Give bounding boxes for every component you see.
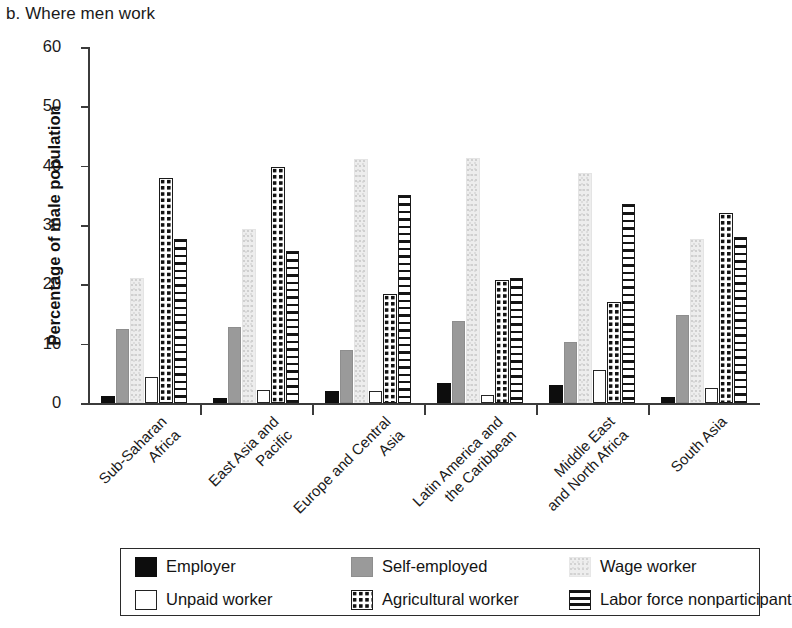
- chart-legend: EmployerSelf-employedWage worker Unpaid …: [120, 548, 760, 616]
- bar-selfemployed: [340, 350, 354, 403]
- y-tick-label: 20: [21, 274, 61, 293]
- light-stipple-swatch: [569, 557, 591, 577]
- page-title: b. Where men work: [6, 4, 155, 24]
- bar-selfemployed: [452, 321, 466, 403]
- bar-labor: [398, 195, 412, 403]
- bar-labor: [734, 237, 748, 403]
- bar-wage: [354, 159, 368, 403]
- y-axis-line: [88, 47, 90, 404]
- legend-row-bottom: Unpaid workerAgricultural workerLabor fo…: [121, 583, 759, 616]
- y-tick-label: 50: [21, 96, 61, 115]
- bar-wage: [690, 239, 704, 403]
- horizontal-stripe-swatch: [569, 590, 591, 610]
- bar-employer: [213, 398, 227, 403]
- legend-item-employer[interactable]: Employer: [135, 557, 236, 577]
- bar-selfemployed: [116, 329, 130, 403]
- bar-agricultural: [271, 167, 285, 403]
- x-group-separator-tick: [424, 404, 426, 415]
- bar-employer: [661, 397, 675, 403]
- solid-black-swatch: [135, 557, 157, 577]
- x-group-separator-tick: [648, 404, 650, 415]
- legend-item-agricultural[interactable]: Agricultural worker: [351, 590, 519, 610]
- bar-unpaid: [481, 395, 495, 403]
- plot-area: 0102030405060: [88, 47, 760, 403]
- y-tick-label: 10: [21, 334, 61, 353]
- legend-label: Employer: [166, 557, 236, 576]
- legend-label: Unpaid worker: [166, 590, 272, 609]
- legend-item-wage[interactable]: Wage worker: [569, 557, 697, 577]
- y-tick-mark: [81, 106, 88, 108]
- bar-selfemployed: [228, 327, 242, 403]
- bar-wage: [130, 278, 144, 403]
- bar-unpaid: [145, 377, 159, 403]
- y-tick-mark: [81, 403, 88, 405]
- bar-agricultural: [383, 294, 397, 403]
- bar-employer: [437, 383, 451, 403]
- bar-selfemployed: [676, 315, 690, 403]
- y-tick-mark: [81, 344, 88, 346]
- white-outline-swatch: [135, 590, 157, 610]
- bar-employer: [325, 391, 339, 403]
- bar-unpaid: [705, 388, 719, 403]
- legend-item-labor[interactable]: Labor force nonparticipant: [569, 590, 792, 610]
- bar-selfemployed: [564, 342, 578, 403]
- bar-wage: [242, 229, 256, 403]
- x-group-separator-tick: [200, 404, 202, 415]
- x-group-separator-tick: [536, 404, 538, 415]
- bar-labor: [174, 239, 188, 403]
- legend-item-selfemployed[interactable]: Self-employed: [351, 557, 487, 577]
- bar-unpaid: [369, 391, 383, 403]
- polka-dot-swatch: [351, 590, 373, 610]
- y-tick-label: 40: [21, 156, 61, 175]
- bar-agricultural: [719, 213, 733, 403]
- bar-employer: [101, 396, 115, 403]
- bar-wage: [466, 158, 480, 403]
- solid-gray-swatch: [351, 557, 373, 577]
- y-tick-label: 0: [21, 393, 61, 412]
- y-tick-mark: [81, 225, 88, 227]
- bar-wage: [578, 173, 592, 403]
- x-group-separator-tick: [312, 404, 314, 415]
- bar-employer: [549, 385, 563, 403]
- bar-agricultural: [607, 302, 621, 403]
- y-tick-mark: [81, 166, 88, 168]
- bar-labor: [622, 204, 636, 403]
- legend-item-unpaid[interactable]: Unpaid worker: [135, 590, 272, 610]
- bar-labor: [286, 251, 300, 403]
- y-tick-mark: [81, 47, 88, 49]
- bar-unpaid: [593, 370, 607, 403]
- y-tick-label: 30: [21, 215, 61, 234]
- legend-label: Agricultural worker: [382, 590, 519, 609]
- bar-unpaid: [257, 390, 271, 403]
- legend-row-top: EmployerSelf-employedWage worker: [121, 550, 759, 583]
- bar-agricultural: [159, 178, 173, 403]
- legend-label: Labor force nonparticipant: [600, 590, 792, 609]
- legend-label: Self-employed: [382, 557, 487, 576]
- bar-labor: [510, 278, 524, 403]
- y-tick-label: 60: [21, 37, 61, 56]
- y-tick-mark: [81, 284, 88, 286]
- bar-agricultural: [495, 280, 509, 403]
- legend-label: Wage worker: [600, 557, 697, 576]
